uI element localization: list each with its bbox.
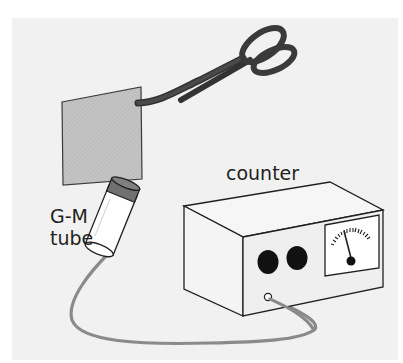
counter-box — [184, 182, 383, 316]
diagram-canvas: counter G-M tube — [0, 0, 403, 363]
counter-label: counter — [226, 162, 299, 184]
radioactive-sample — [62, 87, 142, 185]
meter-gauge-icon — [325, 215, 379, 276]
apparatus-illustration — [0, 0, 403, 363]
knob-left — [258, 250, 279, 274]
tongs-icon — [138, 21, 298, 103]
gm-tube-label-line2: tube — [50, 227, 93, 249]
gm-tube-label-line1: G-M — [50, 205, 93, 227]
gm-tube-label: G-M tube — [50, 205, 93, 249]
knob-right — [287, 246, 308, 270]
